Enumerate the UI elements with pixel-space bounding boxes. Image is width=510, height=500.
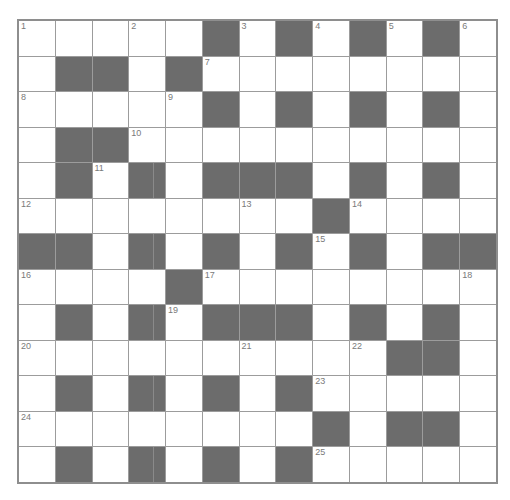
- answer-cell[interactable]: [460, 128, 496, 163]
- answer-cell[interactable]: [387, 57, 423, 92]
- answer-cell[interactable]: [460, 341, 496, 376]
- answer-cell[interactable]: [460, 412, 496, 447]
- answer-cell[interactable]: [166, 128, 202, 163]
- answer-cell[interactable]: [203, 128, 239, 163]
- answer-cell[interactable]: 21: [240, 341, 276, 376]
- answer-cell[interactable]: 11: [93, 163, 129, 198]
- answer-cell[interactable]: 5: [387, 21, 423, 56]
- answer-cell[interactable]: [19, 163, 55, 198]
- answer-cell[interactable]: [93, 447, 129, 482]
- answer-cell[interactable]: [56, 199, 92, 234]
- answer-cell[interactable]: [460, 57, 496, 92]
- answer-cell[interactable]: [423, 128, 459, 163]
- answer-cell[interactable]: [166, 447, 202, 482]
- answer-cell[interactable]: 15: [313, 234, 349, 269]
- answer-cell[interactable]: [423, 57, 459, 92]
- answer-cell[interactable]: [387, 270, 423, 305]
- answer-cell[interactable]: [203, 412, 239, 447]
- answer-cell[interactable]: [56, 92, 92, 127]
- answer-cell[interactable]: [93, 270, 129, 305]
- answer-cell[interactable]: [129, 412, 165, 447]
- answer-cell[interactable]: [240, 270, 276, 305]
- answer-cell[interactable]: 20: [19, 341, 55, 376]
- answer-cell[interactable]: [203, 341, 239, 376]
- answer-cell[interactable]: [350, 376, 386, 411]
- answer-cell[interactable]: [240, 57, 276, 92]
- answer-cell[interactable]: 12: [19, 199, 55, 234]
- answer-cell[interactable]: 9: [166, 92, 202, 127]
- answer-cell[interactable]: [423, 199, 459, 234]
- answer-cell[interactable]: [460, 92, 496, 127]
- answer-cell[interactable]: [387, 376, 423, 411]
- answer-cell[interactable]: [350, 447, 386, 482]
- answer-cell[interactable]: 13: [240, 199, 276, 234]
- answer-cell[interactable]: [350, 412, 386, 447]
- answer-cell[interactable]: [93, 92, 129, 127]
- answer-cell[interactable]: [129, 57, 165, 92]
- answer-cell[interactable]: 4: [313, 21, 349, 56]
- answer-cell[interactable]: [313, 57, 349, 92]
- answer-cell[interactable]: [276, 412, 312, 447]
- answer-cell[interactable]: 8: [19, 92, 55, 127]
- answer-cell[interactable]: 17: [203, 270, 239, 305]
- answer-cell[interactable]: [93, 199, 129, 234]
- answer-cell[interactable]: [240, 412, 276, 447]
- answer-cell[interactable]: 6: [460, 21, 496, 56]
- answer-cell[interactable]: 18: [460, 270, 496, 305]
- answer-cell[interactable]: [203, 199, 239, 234]
- answer-cell[interactable]: [56, 270, 92, 305]
- answer-cell[interactable]: 2: [129, 21, 165, 56]
- answer-cell[interactable]: [276, 57, 312, 92]
- answer-cell[interactable]: 14: [350, 199, 386, 234]
- answer-cell[interactable]: [387, 163, 423, 198]
- answer-cell[interactable]: [350, 57, 386, 92]
- answer-cell[interactable]: 16: [19, 270, 55, 305]
- answer-cell[interactable]: [387, 128, 423, 163]
- answer-cell[interactable]: [387, 447, 423, 482]
- answer-cell[interactable]: [166, 341, 202, 376]
- answer-cell[interactable]: 10: [129, 128, 165, 163]
- answer-cell[interactable]: [56, 412, 92, 447]
- answer-cell[interactable]: [387, 305, 423, 340]
- answer-cell[interactable]: [166, 376, 202, 411]
- answer-cell[interactable]: [423, 376, 459, 411]
- answer-cell[interactable]: [240, 447, 276, 482]
- answer-cell[interactable]: 1: [19, 21, 55, 56]
- answer-cell[interactable]: 23: [313, 376, 349, 411]
- answer-cell[interactable]: 22: [350, 341, 386, 376]
- answer-cell[interactable]: [313, 270, 349, 305]
- answer-cell[interactable]: [19, 128, 55, 163]
- answer-cell[interactable]: [129, 341, 165, 376]
- answer-cell[interactable]: [166, 163, 202, 198]
- answer-cell[interactable]: 3: [240, 21, 276, 56]
- answer-cell[interactable]: [276, 199, 312, 234]
- answer-cell[interactable]: [423, 270, 459, 305]
- answer-cell[interactable]: [166, 234, 202, 269]
- answer-cell[interactable]: [93, 234, 129, 269]
- answer-cell[interactable]: [313, 163, 349, 198]
- answer-cell[interactable]: [423, 447, 459, 482]
- answer-cell[interactable]: [129, 92, 165, 127]
- answer-cell[interactable]: [240, 92, 276, 127]
- answer-cell[interactable]: [313, 128, 349, 163]
- answer-cell[interactable]: [56, 341, 92, 376]
- answer-cell[interactable]: [313, 341, 349, 376]
- answer-cell[interactable]: [93, 305, 129, 340]
- answer-cell[interactable]: [93, 376, 129, 411]
- answer-cell[interactable]: [460, 305, 496, 340]
- answer-cell[interactable]: [460, 447, 496, 482]
- answer-cell[interactable]: [313, 305, 349, 340]
- answer-cell[interactable]: [387, 234, 423, 269]
- answer-cell[interactable]: [56, 21, 92, 56]
- answer-cell[interactable]: [93, 21, 129, 56]
- answer-cell[interactable]: [460, 376, 496, 411]
- answer-cell[interactable]: [240, 376, 276, 411]
- answer-cell[interactable]: [240, 234, 276, 269]
- answer-cell[interactable]: [350, 128, 386, 163]
- answer-cell[interactable]: [166, 199, 202, 234]
- answer-cell[interactable]: [19, 57, 55, 92]
- answer-cell[interactable]: [166, 21, 202, 56]
- answer-cell[interactable]: [129, 270, 165, 305]
- answer-cell[interactable]: 25: [313, 447, 349, 482]
- answer-cell[interactable]: [19, 305, 55, 340]
